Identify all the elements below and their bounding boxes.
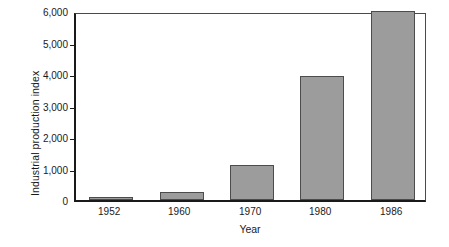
x-axis-tick-label: 1952 [74,206,144,218]
y-axis-tick-label: 1,000 [34,166,68,176]
y-axis-tick-label: 2,000 [34,134,68,144]
x-axis-title: Year [74,223,426,235]
y-axis-tick-label: 3,000 [34,103,68,113]
y-axis-tick-label: 4,000 [34,71,68,81]
bar-1970 [230,165,274,200]
x-axis-tick-label: 1970 [215,206,285,218]
bar-1986 [371,11,415,200]
bar-series [76,14,425,200]
bar-1960 [160,192,204,200]
y-axis-tick-label: 0 [34,197,68,207]
bar-chart-figure: Industrial production index 01,0002,0003… [0,0,449,247]
x-axis-tick-label: 1986 [356,206,426,218]
x-axis-tick-labels: 19521960197019801986 [74,206,426,220]
y-axis-tick-label: 5,000 [34,40,68,50]
x-axis-tick-label: 1960 [144,206,214,218]
y-axis-tick-label: 6,000 [34,8,68,18]
y-axis-tick-labels: 01,0002,0003,0004,0005,0006,000 [34,0,68,247]
bar-1980 [300,76,344,200]
bar-1952 [89,197,133,200]
x-axis-tick-label: 1980 [285,206,355,218]
plot-area [74,13,426,202]
